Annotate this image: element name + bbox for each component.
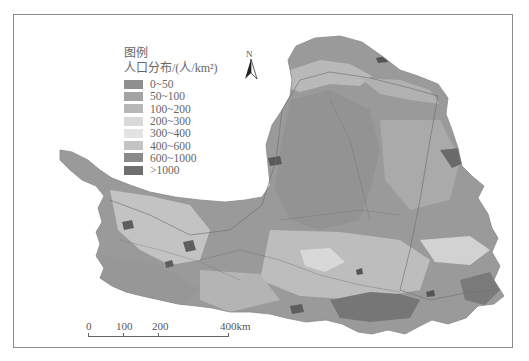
legend: 图例 人口分布/(人/km²) 0~5050~100100~200200~300… xyxy=(124,46,218,176)
legend-label: 100~200 xyxy=(150,103,191,115)
north-label: N xyxy=(246,49,253,59)
scale-tick-200 xyxy=(158,333,159,337)
scale-tick-100 xyxy=(123,333,124,337)
scale-tick-400 xyxy=(228,333,229,337)
legend-swatch xyxy=(124,104,143,113)
legend-label: 0~50 xyxy=(150,78,173,90)
legend-subtitle: 人口分布/(人/km²) xyxy=(124,61,218,76)
legend-label: >1000 xyxy=(150,164,180,176)
legend-swatch xyxy=(124,80,143,89)
scale-tick-0 xyxy=(88,333,89,337)
legend-swatch xyxy=(124,153,143,162)
legend-items: 0~5050~100100~200200~300300~400400~60060… xyxy=(124,78,218,176)
scale-label-0: 0 xyxy=(86,320,92,332)
legend-label: 300~400 xyxy=(150,127,191,139)
legend-label: 400~600 xyxy=(150,140,191,152)
legend-label: 600~1000 xyxy=(150,152,196,164)
legend-swatch xyxy=(124,92,143,101)
basin-fill xyxy=(40,30,510,340)
legend-item: 300~400 xyxy=(124,127,218,139)
legend-swatch xyxy=(124,141,143,150)
scale-label-400: 400km xyxy=(220,320,251,332)
legend-item: 100~200 xyxy=(124,103,218,115)
map-canvas xyxy=(0,0,529,361)
legend-swatch xyxy=(124,117,143,126)
legend-item: 50~100 xyxy=(124,90,218,102)
legend-swatch xyxy=(124,166,143,175)
legend-item: 400~600 xyxy=(124,139,218,151)
legend-label: 200~300 xyxy=(150,115,191,127)
legend-item: 0~50 xyxy=(124,78,218,90)
scale-label-200: 200 xyxy=(152,320,169,332)
legend-item: 200~300 xyxy=(124,115,218,127)
legend-label: 50~100 xyxy=(150,90,185,102)
north-arrow-icon xyxy=(243,59,259,81)
scale-label-100: 100 xyxy=(116,320,133,332)
legend-item: 600~1000 xyxy=(124,152,218,164)
legend-title: 图例 xyxy=(124,46,218,61)
north-arrow: N xyxy=(243,49,259,79)
legend-swatch xyxy=(124,129,143,138)
legend-item: >1000 xyxy=(124,164,218,176)
